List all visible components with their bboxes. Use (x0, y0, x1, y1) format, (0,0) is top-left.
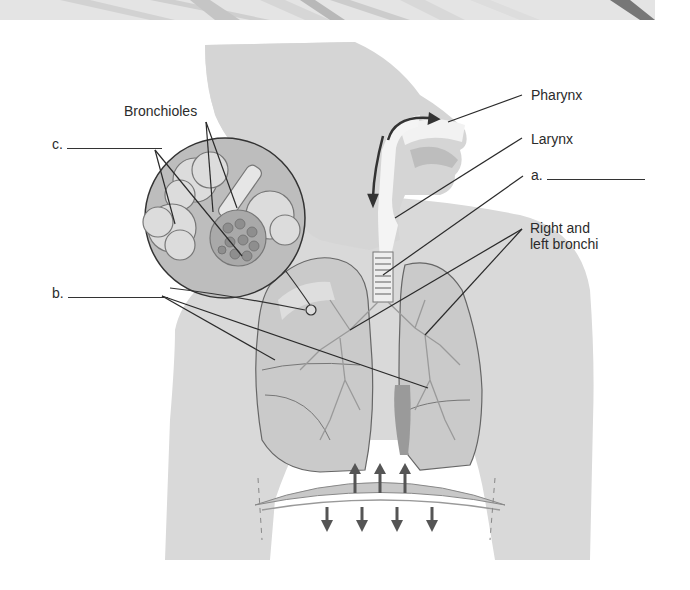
fill-in-blank-c[interactable] (67, 148, 162, 149)
label-bronchioles: Bronchioles (124, 103, 197, 119)
label-bronchi-line2: left bronchi (530, 236, 598, 252)
label-a-blank: a. (531, 167, 645, 183)
label-b-blank: b. (52, 285, 168, 301)
label-larynx: Larynx (531, 131, 573, 147)
label-c-blank: c. (52, 136, 162, 152)
label-bronchi-line1: Right and (530, 220, 598, 236)
fill-in-blank-a[interactable] (547, 179, 645, 180)
right-lung (256, 258, 373, 472)
label-a-letter: a. (531, 167, 543, 183)
fill-in-blank-b[interactable] (68, 297, 168, 298)
diaphragm-down-arrows (321, 507, 438, 532)
label-right-left-bronchi: Right and left bronchi (530, 220, 598, 252)
label-b-letter: b. (52, 285, 64, 301)
label-pharynx: Pharynx (531, 87, 582, 103)
trachea (373, 252, 393, 302)
label-c-letter: c. (52, 136, 63, 152)
